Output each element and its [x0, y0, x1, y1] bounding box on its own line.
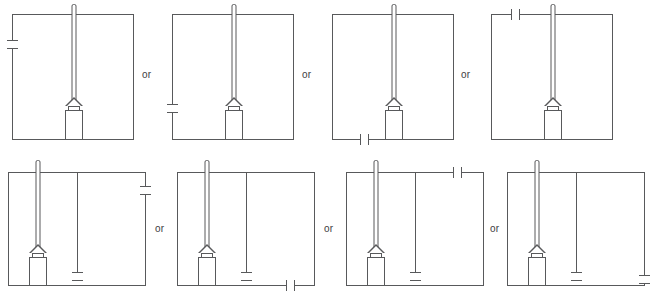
break-tick [410, 280, 421, 281]
probe-block-base [198, 257, 216, 286]
break-tick [410, 272, 421, 273]
probe-rod [36, 160, 41, 251]
probe-apparatus [380, 4, 408, 140]
separator-or-2: or [302, 70, 311, 80]
break-tick [7, 48, 18, 49]
break-tick [461, 167, 462, 178]
break-marker-right-upper [143, 186, 148, 195]
break-tick [241, 272, 252, 273]
panel-6 [177, 172, 315, 286]
probe-rod [205, 160, 210, 251]
break-tick [167, 112, 178, 113]
probe-block-base [65, 110, 83, 140]
break-tick [519, 9, 520, 20]
panel-4 [491, 14, 613, 140]
break-tick [167, 104, 178, 105]
probe-rod [72, 4, 77, 104]
break-tick [511, 9, 512, 20]
probe-cone-inner [67, 99, 81, 106]
break-tick [639, 275, 650, 276]
probe-block-base [367, 257, 385, 286]
break-marker-bottom-right [360, 137, 369, 142]
break-marker-top-right [453, 170, 462, 175]
probe-block-base [385, 110, 403, 140]
panel-2 [172, 14, 294, 140]
inner-reference-line [415, 172, 416, 272]
break-tick [360, 134, 361, 145]
panel-3 [332, 14, 454, 140]
panel-7 [346, 172, 484, 286]
inner-line-break-marker [244, 272, 249, 281]
break-tick [294, 280, 295, 291]
probe-block-base [29, 257, 47, 286]
probe-rod [374, 160, 379, 251]
separator-or-6: or [490, 224, 499, 234]
break-marker-left-lower [170, 104, 175, 113]
break-marker-top-left [511, 12, 520, 17]
panel-1 [12, 14, 134, 140]
probe-cone-inner [530, 246, 544, 253]
diagram-canvas: or or or [0, 0, 653, 305]
probe-block-base [528, 257, 546, 286]
probe-cone-inner [31, 246, 45, 253]
inner-line-break-marker [574, 272, 579, 281]
probe-rod [392, 4, 397, 104]
inner-reference-line [576, 172, 577, 272]
break-tick [140, 186, 151, 187]
break-tick [639, 283, 650, 284]
probe-cone-inner [200, 246, 214, 253]
probe-cone-inner [369, 246, 383, 253]
probe-apparatus [193, 160, 221, 286]
break-tick [571, 272, 582, 273]
break-tick [241, 280, 252, 281]
break-tick [453, 167, 454, 178]
break-marker-right-lower [642, 275, 647, 284]
break-tick [7, 40, 18, 41]
probe-apparatus [24, 160, 52, 286]
probe-apparatus [60, 4, 88, 140]
probe-cone-inner [227, 99, 241, 106]
separator-or-5: or [324, 224, 333, 234]
probe-rod [535, 160, 540, 251]
inner-reference-line [246, 172, 247, 272]
separator-or-4: or [155, 224, 164, 234]
separator-or-3: or [461, 70, 470, 80]
separator-or-1: or [142, 70, 151, 80]
probe-rod [551, 4, 556, 104]
probe-block-base [225, 110, 243, 140]
break-tick [72, 272, 83, 273]
probe-apparatus [220, 4, 248, 140]
inner-line-break-marker [75, 272, 80, 281]
break-marker-bottom-right [286, 283, 295, 288]
break-tick [72, 280, 83, 281]
break-tick [140, 194, 151, 195]
probe-rod [232, 4, 237, 104]
panel-5 [8, 172, 146, 286]
probe-apparatus [539, 4, 567, 140]
break-tick [368, 134, 369, 145]
probe-block-base [544, 110, 562, 140]
break-tick [571, 280, 582, 281]
break-marker-left-upper [10, 40, 15, 49]
panel-8 [507, 172, 645, 286]
inner-line-break-marker [413, 272, 418, 281]
probe-apparatus [362, 160, 390, 286]
break-tick [286, 280, 287, 291]
probe-apparatus [523, 160, 551, 286]
probe-cone-inner [387, 99, 401, 106]
probe-cone-inner [546, 99, 560, 106]
inner-reference-line [77, 172, 78, 272]
